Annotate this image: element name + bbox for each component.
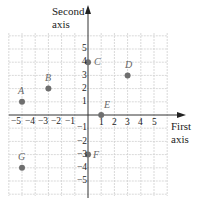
x-tick: −5 <box>11 117 21 127</box>
y-tick: 2 <box>82 84 87 94</box>
x-tick: 5 <box>152 118 157 128</box>
point-label-e: E <box>104 100 110 110</box>
y-tick: 1 <box>82 97 87 107</box>
y-tick: 3 <box>82 71 87 81</box>
coordinate-plane <box>0 0 200 205</box>
x-axis-arrow-icon <box>177 112 186 118</box>
point-label-d: D <box>125 60 132 70</box>
y-tick: −2 <box>77 137 87 147</box>
point-label-f: F <box>93 150 99 160</box>
y-axis-label: Second axis <box>52 6 84 30</box>
x-tick: 3 <box>125 118 130 128</box>
x-tick: −2 <box>51 117 61 127</box>
y-tick: 4 <box>82 57 87 67</box>
y-tick: −1 <box>77 123 87 133</box>
x-tick: 4 <box>138 118 143 128</box>
x-tick: −4 <box>25 117 35 127</box>
x-tick: −3 <box>38 117 48 127</box>
y-axis-label-line1: Second <box>52 6 84 17</box>
y-axis-label-line2: axis <box>52 19 84 30</box>
x-tick: 1 <box>99 118 104 128</box>
point-g <box>19 165 25 171</box>
y-tick: 5 <box>82 44 87 54</box>
y-axis-arrow-icon <box>85 5 91 14</box>
y-tick: −5 <box>77 176 87 186</box>
point-label-a: A <box>18 86 24 96</box>
point-label-g: G <box>18 152 25 162</box>
point-d <box>125 72 131 78</box>
point-label-c: C <box>94 57 101 67</box>
x-tick: 2 <box>112 118 117 128</box>
x-axis-label-line2: axis <box>171 134 191 145</box>
point-b <box>45 86 51 92</box>
y-tick: −3 <box>77 150 87 160</box>
x-tick: −1 <box>65 117 75 127</box>
x-axis-label-line1: First <box>171 121 191 132</box>
point-a <box>19 99 25 105</box>
x-axis-label: First axis <box>171 121 191 145</box>
point-label-b: B <box>45 73 51 83</box>
y-tick: −4 <box>77 163 87 173</box>
